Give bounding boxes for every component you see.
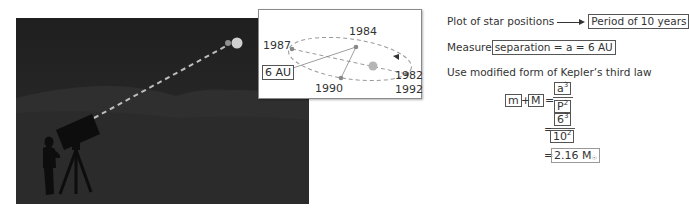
year-1987: 1987: [263, 40, 291, 51]
solar-mass-symbol: ☉: [591, 154, 596, 161]
separation-result: separation = a = 6 AU: [492, 40, 616, 55]
separation-line: Measureseparation = a = 6 AU: [447, 40, 616, 55]
numerator-6-cubed: 63: [554, 113, 571, 126]
period-result: Period of 10 years: [588, 14, 689, 29]
small-star: [225, 40, 231, 46]
ten-base: 10: [553, 130, 567, 143]
fraction-bar-2: [551, 128, 575, 129]
arrow-right-icon: [557, 18, 585, 26]
orbit-plot-inset: 1987 1984 1990 1982 1992 6 AU: [258, 9, 422, 99]
exp-3: 3: [564, 81, 568, 89]
a-base: a: [557, 82, 564, 95]
mass-result: 2.16 M☉: [551, 148, 600, 163]
six-base: 6: [557, 113, 564, 126]
year-1990: 1990: [315, 83, 343, 94]
orbit-direction-arrow: [393, 54, 399, 60]
exp-2: 2: [564, 99, 568, 107]
exp-3: 3: [564, 112, 568, 120]
denominator-P-squared: P2: [554, 100, 571, 113]
P-base: P: [557, 100, 564, 113]
exp-2: 2: [567, 129, 571, 137]
large-star: [232, 38, 243, 49]
kepler-law-text: Use modified form of Kepler’s third law: [447, 67, 652, 78]
measure-text: Measure: [447, 41, 492, 53]
year-1982: 1982: [395, 70, 423, 81]
denominator-10-squared: 102: [550, 130, 574, 143]
primary-star: [369, 62, 378, 71]
year-1984: 1984: [349, 26, 377, 37]
major-axis: [292, 49, 407, 74]
fraction-bar-1: [553, 97, 573, 98]
result-value: 2.16 M: [554, 149, 591, 162]
separation-label: 6 AU: [262, 65, 294, 80]
period-line: Plot of star positionsPeriod of 10 years: [447, 14, 689, 29]
numerator-a-cubed: a3: [554, 82, 571, 95]
mass-M: M: [528, 94, 544, 107]
year-1992: 1992: [395, 84, 423, 95]
mass-m: m: [505, 94, 522, 107]
plot-positions-text: Plot of star positions: [447, 15, 554, 27]
